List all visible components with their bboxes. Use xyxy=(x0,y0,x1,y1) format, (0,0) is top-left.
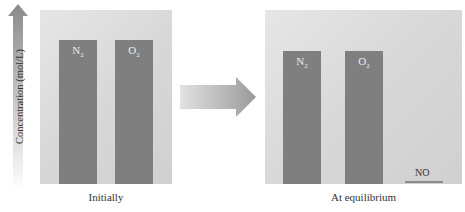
bar-n2-equilibrium: N2 xyxy=(283,51,321,184)
bar-n2-initial: N2 xyxy=(59,40,97,184)
bar-label: O2 xyxy=(345,55,383,70)
bar-label-no: NO xyxy=(415,167,429,178)
panel-initially: N2 O2 xyxy=(40,10,172,184)
caption-equilibrium: At equilibrium xyxy=(265,191,462,203)
bar-o2-equilibrium: O2 xyxy=(345,51,383,184)
y-axis-label: Concentration (mol/L) xyxy=(14,18,25,176)
bar-o2-initial: O2 xyxy=(115,40,153,184)
bar-no-equilibrium xyxy=(405,181,443,183)
bar-label: O2 xyxy=(115,44,153,59)
panel-equilibrium: N2 O2 NO xyxy=(265,10,462,184)
right-arrow-icon xyxy=(180,77,256,117)
bar-label: N2 xyxy=(59,44,97,59)
bar-label: N2 xyxy=(283,55,321,70)
caption-initially: Initially xyxy=(40,191,172,203)
